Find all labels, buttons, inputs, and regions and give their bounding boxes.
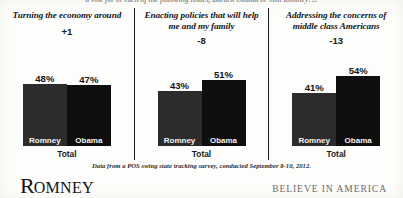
romney-logo: ROMNEY (20, 177, 94, 196)
panel-margin-value: +1 (0, 26, 134, 37)
chart-panel-policies: Enacting policies that will help me and … (134, 8, 269, 160)
bar-obama: Obama (336, 76, 380, 146)
panel-title: Addressing the concerns of middle class … (274, 10, 398, 32)
bar-group-obama: 51% Obama (202, 70, 246, 146)
bar-label-obama: Obama (336, 136, 380, 145)
romney-logo-initial: R (20, 173, 34, 198)
bar-group-obama: 47% Obama (67, 70, 111, 146)
bar-romney: Romney (23, 84, 67, 146)
bar-label-romney: Romney (292, 136, 336, 145)
chart-panel-economy: Turning the economy around +1 48% Romney… (0, 8, 134, 160)
chart-panel-middle-class: Addressing the concerns of middle class … (268, 8, 403, 160)
bar-value-obama: 51% (202, 69, 246, 80)
bar-value-obama: 47% (67, 74, 111, 85)
plot-area: 41% Romney 54% Obama (292, 70, 380, 146)
bar-romney: Romney (158, 91, 202, 146)
bar-chart: 41% Romney 54% Obama Total (269, 68, 403, 160)
bar-romney: Romney (292, 93, 336, 146)
campaign-tagline: BELIEVE IN AMERICA (272, 183, 387, 194)
bar-chart: 43% Romney 51% Obama Total (135, 68, 269, 160)
slide-footer: Data from a POS swing state tracking sur… (0, 160, 403, 198)
panel-margin-value: -13 (269, 35, 403, 46)
slide-canvas: a vote for or each of the following issu… (0, 0, 403, 198)
bar-group-romney: 43% Romney (158, 70, 202, 146)
bar-value-romney: 41% (292, 82, 336, 93)
panel-margin-value: -8 (135, 35, 269, 46)
bar-value-obama: 54% (336, 65, 380, 76)
survey-question-strip: a vote for or each of the following issu… (0, 0, 403, 4)
bar-group-romney: 41% Romney (292, 70, 336, 146)
bar-obama: Obama (202, 80, 246, 146)
plot-area: 48% Romney 47% Obama (23, 70, 111, 146)
romney-logo-text: OMNEY (34, 179, 94, 196)
bar-label-obama: Obama (67, 136, 111, 145)
panel-title: Turning the economy around (5, 10, 129, 21)
bar-label-obama: Obama (202, 136, 246, 145)
bar-obama: Obama (67, 85, 111, 146)
axis-label-total: Total (0, 149, 134, 159)
bar-value-romney: 48% (23, 73, 67, 84)
chart-panel-row: Turning the economy around +1 48% Romney… (0, 8, 403, 160)
bar-label-romney: Romney (23, 136, 67, 145)
survey-question-text: a vote for or each of the following issu… (0, 0, 403, 4)
axis-label-total: Total (135, 149, 269, 159)
bar-group-obama: 54% Obama (336, 70, 380, 146)
bar-label-romney: Romney (158, 136, 202, 145)
source-note: Data from a POS swing state tracking sur… (0, 162, 403, 169)
plot-area: 43% Romney 51% Obama (158, 70, 246, 146)
bar-value-romney: 43% (158, 80, 202, 91)
bar-group-romney: 48% Romney (23, 70, 67, 146)
panel-title: Enacting policies that will help me and … (140, 10, 264, 32)
bar-chart: 48% Romney 47% Obama Total (0, 68, 134, 160)
axis-label-total: Total (269, 149, 403, 159)
